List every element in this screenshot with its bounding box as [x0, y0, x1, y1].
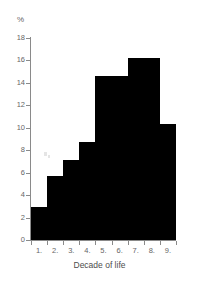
y-tick-label: 4: [1, 191, 25, 199]
y-tick-label-wrap: 16: [0, 56, 25, 64]
y-tick-label-wrap: 8: [0, 146, 25, 154]
scan-artifact: [48, 155, 50, 158]
y-tick-label-wrap: 14: [0, 79, 25, 87]
x-tick-mark: [144, 241, 145, 245]
x-tick-label: 7.: [129, 246, 143, 255]
bar: [144, 58, 161, 240]
y-tick-label: 8: [1, 146, 25, 154]
y-tick-label: 18: [1, 34, 25, 42]
y-tick-label: 16: [1, 56, 25, 64]
y-tick-label-wrap: 0: [0, 236, 25, 244]
y-tick-label-wrap: 4: [0, 191, 25, 199]
y-tick-label: 14: [1, 79, 25, 87]
x-tick-label: 6.: [113, 246, 127, 255]
x-tick-label: 1.: [32, 246, 46, 255]
x-tick-mark: [47, 241, 48, 245]
x-tick-mark: [31, 241, 32, 245]
x-axis-line: [30, 240, 176, 241]
x-tick-mark: [79, 241, 80, 245]
bar: [160, 124, 177, 240]
scan-artifact: [44, 152, 47, 156]
y-tick-label-wrap: 2: [0, 214, 25, 222]
y-tick-label-wrap: 10: [0, 124, 25, 132]
bar: [79, 142, 96, 240]
y-tick-label-wrap: 6: [0, 169, 25, 177]
x-tick-mark: [63, 241, 64, 245]
x-tick-mark: [160, 241, 161, 245]
x-axis-title: Decade of life: [0, 260, 199, 270]
plot-area: [31, 38, 176, 240]
x-tick-label: 3.: [64, 246, 78, 255]
y-tick-label: 6: [1, 169, 25, 177]
bar: [112, 76, 129, 240]
y-tick-label: 2: [1, 214, 25, 222]
x-tick-label: 9.: [161, 246, 175, 255]
histogram-figure: % 024681012141618 1.2.3.4.5.6.7.8.9. Dec…: [0, 0, 199, 283]
bar: [63, 160, 80, 240]
bar: [47, 176, 64, 240]
x-tick-label: 8.: [145, 246, 159, 255]
y-tick-label-wrap: 18: [0, 34, 25, 42]
y-tick-label-wrap: 12: [0, 101, 25, 109]
x-tick-mark: [128, 241, 129, 245]
x-tick-label: 2.: [48, 246, 62, 255]
y-tick-label: 12: [1, 101, 25, 109]
y-tick-label: 10: [1, 124, 25, 132]
y-axis-unit-label: %: [17, 15, 24, 24]
y-tick-label: 0: [1, 236, 25, 244]
bar: [95, 76, 112, 240]
bar: [128, 58, 145, 240]
x-tick-mark: [112, 241, 113, 245]
x-tick-label: 5.: [97, 246, 111, 255]
bar: [31, 207, 48, 240]
x-tick-mark: [95, 241, 96, 245]
x-tick-label: 4.: [80, 246, 94, 255]
x-tick-mark: [176, 241, 177, 245]
